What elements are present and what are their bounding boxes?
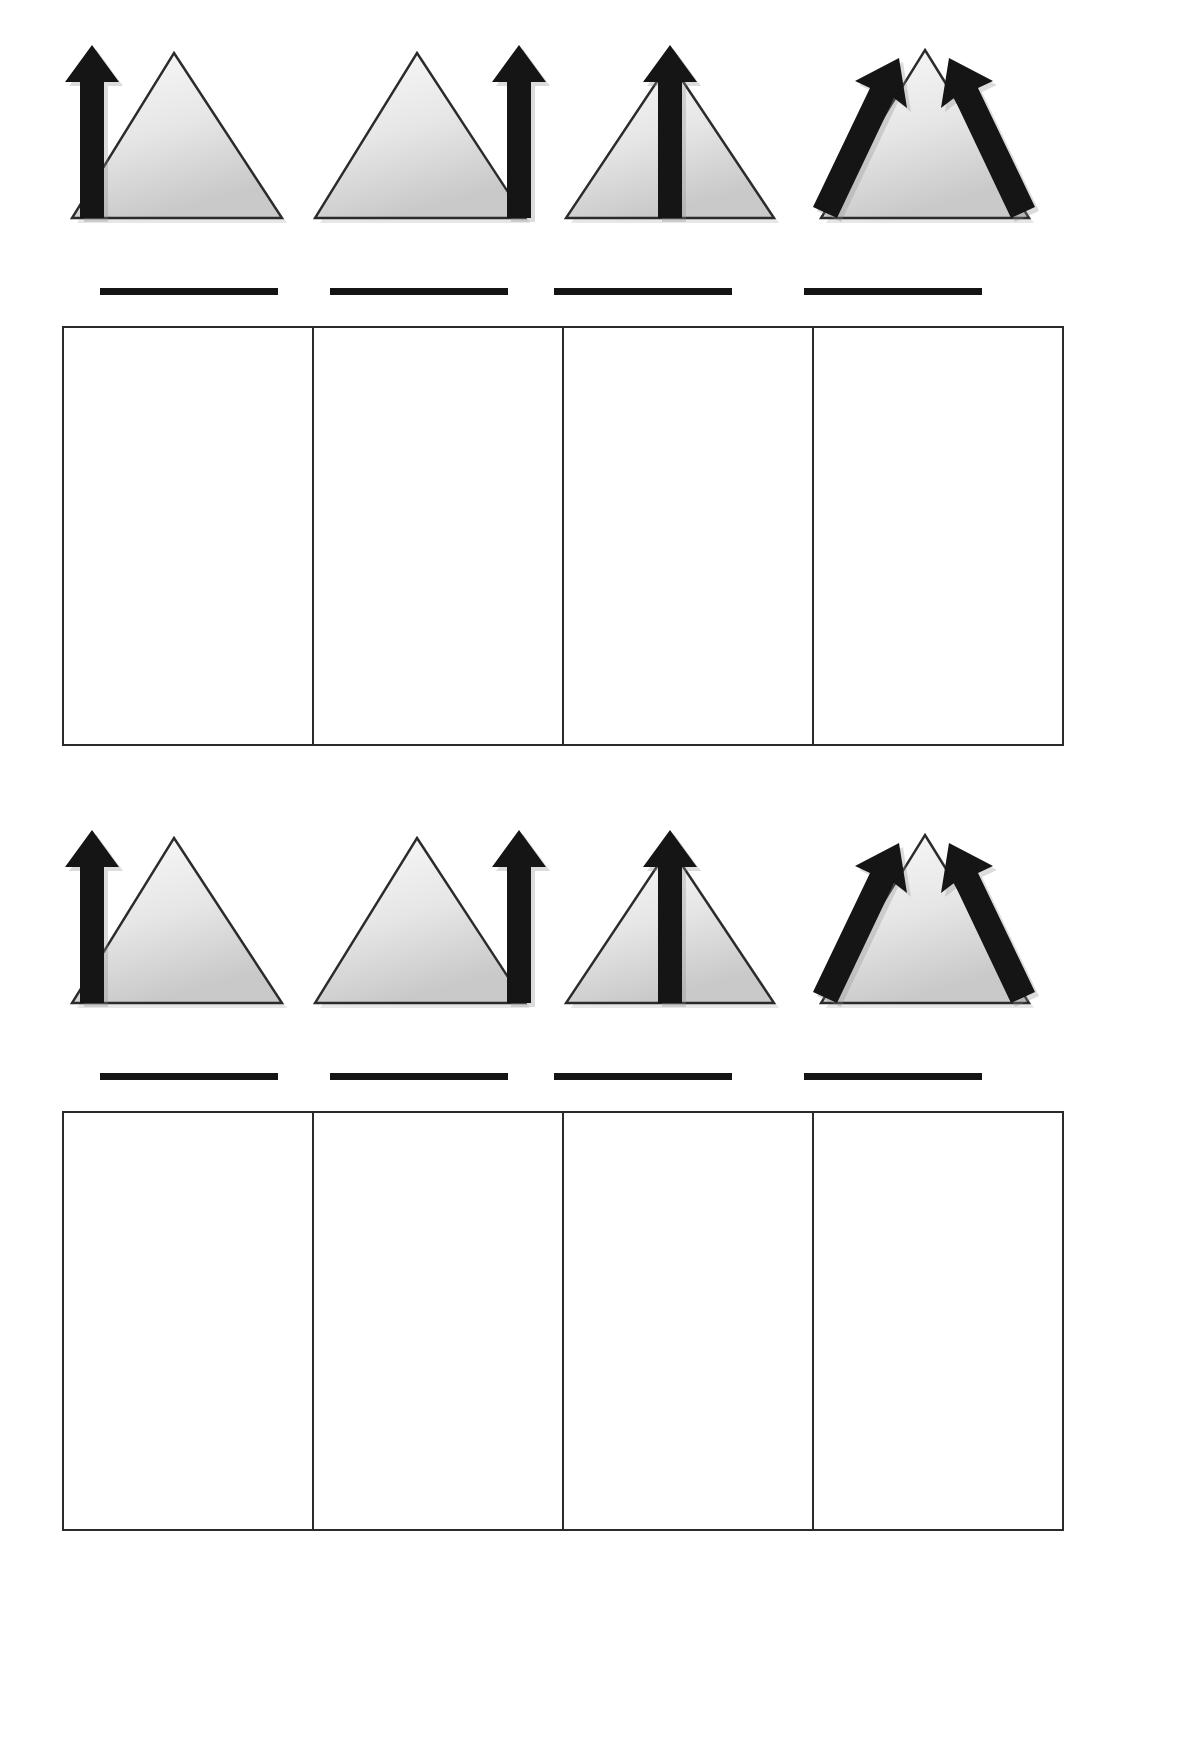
answer-table-1: [62, 326, 1064, 746]
triangle-with-arrow-right-icon: [307, 40, 562, 240]
answer-line[interactable]: [100, 288, 278, 295]
triangle-with-arrow-center-icon: [552, 825, 807, 1025]
triangle-with-arrow-left-icon: [62, 40, 317, 240]
table-cell[interactable]: [564, 328, 814, 744]
answer-line[interactable]: [804, 288, 982, 295]
answer-table-2: [62, 1111, 1064, 1531]
answer-line[interactable]: [554, 1073, 732, 1080]
answer-line[interactable]: [554, 288, 732, 295]
table-cell[interactable]: [314, 328, 564, 744]
worksheet-section-2: [0, 825, 1182, 1531]
answer-line[interactable]: [330, 1073, 508, 1080]
triangle-with-two-diagonal-arrows-icon: [797, 40, 1052, 240]
table-cell[interactable]: [814, 1113, 1062, 1529]
table-cell[interactable]: [64, 328, 314, 744]
answer-lines-row-2: [62, 1067, 1082, 1089]
icon-row-1: [62, 40, 1082, 240]
answer-line[interactable]: [100, 1073, 278, 1080]
triangle-with-two-diagonal-arrows-icon: [797, 825, 1052, 1025]
triangle-with-arrow-center-icon: [552, 40, 807, 240]
answer-lines-row-1: [62, 282, 1082, 304]
table-cell[interactable]: [564, 1113, 814, 1529]
answer-line[interactable]: [804, 1073, 982, 1080]
table-cell[interactable]: [64, 1113, 314, 1529]
triangle-with-arrow-right-icon: [307, 825, 562, 1025]
worksheet-page: [0, 0, 1182, 1738]
worksheet-section-1: [0, 40, 1182, 746]
table-cell[interactable]: [814, 328, 1062, 744]
triangle-with-arrow-left-icon: [62, 825, 317, 1025]
table-cell[interactable]: [314, 1113, 564, 1529]
icon-row-2: [62, 825, 1082, 1025]
answer-line[interactable]: [330, 288, 508, 295]
